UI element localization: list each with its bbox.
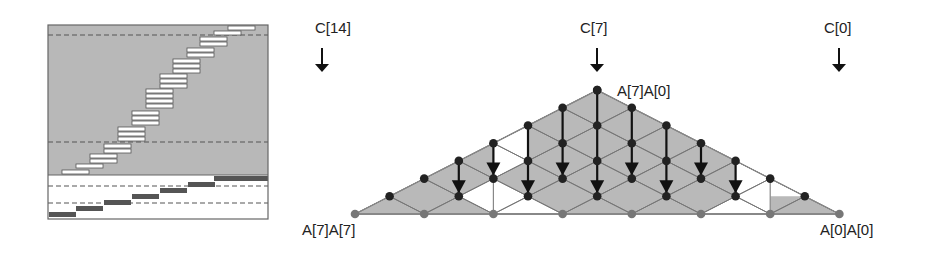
dark-bar (188, 182, 215, 187)
partial-product-node (558, 174, 567, 183)
partial-product-node (662, 157, 671, 166)
white-bar (160, 79, 187, 83)
white-bar (200, 37, 227, 41)
white-bar (132, 111, 159, 115)
partial-product-node (489, 139, 498, 148)
base-node (628, 210, 637, 219)
white-bar (160, 84, 187, 88)
white-bar (146, 104, 173, 108)
label-right-base: A[0]A[0] (820, 222, 873, 237)
white-bar (173, 69, 200, 73)
partial-product-node (662, 121, 671, 130)
partial-product-node (455, 192, 464, 201)
label-c7: C[7] (580, 20, 608, 35)
base-node (351, 210, 360, 219)
white-bar (214, 31, 241, 35)
dark-bar (104, 200, 131, 205)
white-bar (132, 121, 159, 125)
partial-product-node (697, 174, 706, 183)
partial-product-node (524, 121, 533, 130)
partial-product-node (628, 139, 637, 148)
partial-product-node (558, 139, 567, 148)
partial-product-node (801, 192, 810, 201)
base-node (835, 210, 844, 219)
dark-bar (241, 176, 268, 181)
white-bar (118, 127, 145, 131)
white-bar (118, 137, 145, 141)
white-bar (90, 159, 117, 163)
arrow-down-icon (590, 64, 604, 72)
label-c14: C[14] (315, 20, 351, 35)
white-bar (76, 164, 103, 168)
partial-product-node (731, 157, 740, 166)
white-bar (173, 59, 200, 63)
dark-bar (214, 176, 241, 181)
white-bar (146, 89, 173, 93)
arrow-down-icon (315, 64, 329, 72)
schedule-panel (48, 25, 268, 219)
partial-product-node (628, 174, 637, 183)
partial-product-node (385, 192, 394, 201)
white-bar (146, 99, 173, 103)
dark-bar (160, 188, 187, 193)
base-node (766, 210, 775, 219)
partial-product-node (697, 139, 706, 148)
white-bar (173, 64, 200, 68)
base-node (420, 210, 429, 219)
partial-product-node (455, 157, 464, 166)
partial-product-node (731, 192, 740, 201)
partial-product-node (524, 157, 533, 166)
partial-product-node (593, 121, 602, 130)
white-bar (228, 26, 255, 30)
base-node (489, 210, 498, 219)
diagram-canvas (0, 0, 943, 257)
partial-product-node (420, 174, 429, 183)
white-bar (132, 116, 159, 120)
partial-product-node (524, 192, 533, 201)
base-node (697, 210, 706, 219)
partial-product-node (489, 174, 498, 183)
partial-product-node (628, 104, 637, 113)
label-left-base: A[7]A[7] (302, 222, 355, 237)
dark-bar (49, 212, 76, 217)
apex-node (593, 86, 602, 95)
multiplier-triangle (351, 86, 844, 219)
partial-product-node (593, 157, 602, 166)
arrow-down-icon (832, 64, 846, 72)
white-bar (104, 149, 131, 153)
white-bar (200, 42, 227, 46)
white-bar (146, 94, 173, 98)
white-bar (62, 170, 89, 174)
partial-product-node (662, 192, 671, 201)
column-arrows (315, 48, 846, 72)
base-node (558, 210, 567, 219)
white-bar (104, 144, 131, 148)
white-bar (118, 132, 145, 136)
dark-bar (132, 194, 159, 199)
dark-bar (76, 206, 103, 211)
white-bar (160, 74, 187, 78)
partial-product-node (593, 192, 602, 201)
white-bar (187, 48, 214, 52)
label-c0: C[0] (824, 20, 852, 35)
partial-product-node (766, 174, 775, 183)
white-bar (90, 154, 117, 158)
figure: C[14] C[7] C[0] A[7]A[0] A[7]A[7] A[0]A[… (0, 0, 943, 257)
partial-product-node (558, 104, 567, 113)
label-apex: A[7]A[0] (617, 83, 670, 98)
white-bar (187, 53, 214, 57)
